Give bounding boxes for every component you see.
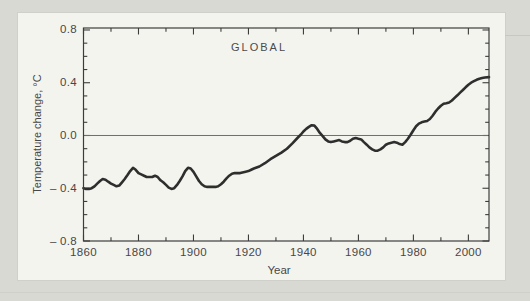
y-tick-label: – 0.8 bbox=[43, 235, 77, 247]
x-tick-label: 1960 bbox=[336, 246, 380, 258]
plot-frame bbox=[84, 28, 490, 241]
x-tick-label: 2000 bbox=[446, 246, 490, 258]
x-tick-label: 1900 bbox=[171, 246, 215, 258]
temperature-curve bbox=[84, 77, 490, 189]
x-tick-label: 1880 bbox=[116, 246, 160, 258]
scanned-figure-page: 0.80.40.0– 0.4– 0.8186018801900192019401… bbox=[0, 0, 530, 301]
axis-ticks bbox=[84, 28, 490, 241]
x-tick-label: 1980 bbox=[391, 246, 435, 258]
x-tick-label: 1860 bbox=[62, 246, 106, 258]
y-tick-label: 0.4 bbox=[43, 76, 77, 88]
y-tick-label: – 0.4 bbox=[43, 182, 77, 194]
page-edge-line bbox=[0, 292, 530, 293]
y-axis-title: Temperature change, °C bbox=[31, 54, 43, 214]
page-callout-line bbox=[505, 35, 530, 36]
y-tick-label: 0.8 bbox=[43, 23, 77, 35]
x-tick-label: 1940 bbox=[281, 246, 325, 258]
x-tick-label: 1920 bbox=[226, 246, 270, 258]
x-axis-title: Year bbox=[257, 264, 301, 276]
y-tick-label: 0.0 bbox=[43, 129, 77, 141]
chart-title: GLOBAL bbox=[214, 41, 304, 53]
